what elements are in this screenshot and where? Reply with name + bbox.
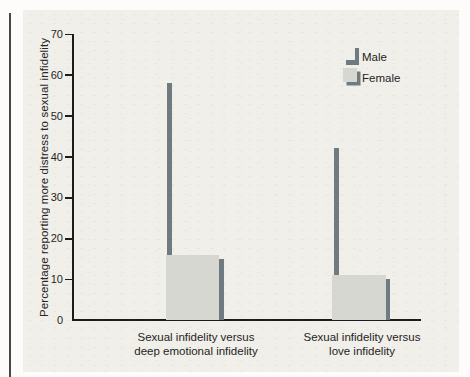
- x-category-label: Sexual infidelity versusdeep emotional i…: [101, 330, 291, 358]
- female-bar-shadow: [386, 279, 391, 320]
- y-tick-label: 50: [37, 110, 63, 122]
- bar-chart: Percentage reporting more distress to se…: [0, 0, 470, 377]
- y-tick-label: 70: [37, 28, 63, 40]
- y-tick-label: 0: [37, 314, 63, 326]
- y-tick: [65, 156, 72, 158]
- female-bar: [332, 275, 386, 320]
- female-bar: [166, 255, 220, 320]
- y-axis-line: [72, 34, 74, 321]
- male-legend-bar-foot: [346, 60, 359, 65]
- y-tick: [65, 115, 72, 117]
- y-tick: [65, 279, 72, 281]
- female-bar-shadow: [219, 259, 224, 320]
- female-legend-swatch: [343, 68, 357, 82]
- y-tick-label: 10: [37, 273, 63, 285]
- y-tick: [65, 197, 72, 199]
- y-tick: [65, 74, 72, 76]
- x-category-label: Sexual infidelity versuslove infidelity: [267, 330, 457, 358]
- y-tick-label: 40: [37, 151, 63, 163]
- y-tick: [65, 34, 72, 36]
- y-tick-label: 20: [37, 232, 63, 244]
- y-tick: [65, 238, 72, 240]
- y-tick-label: 30: [37, 191, 63, 203]
- y-tick-label: 60: [37, 69, 63, 81]
- legend-label-male: Male: [362, 50, 387, 64]
- legend-label-female: Female: [362, 71, 400, 85]
